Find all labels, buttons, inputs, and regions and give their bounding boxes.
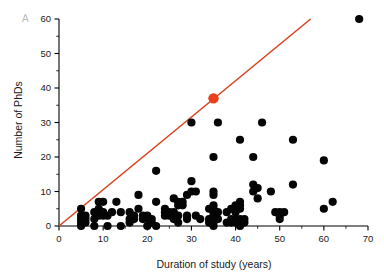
data-point[interactable] bbox=[77, 205, 85, 213]
data-point[interactable] bbox=[289, 181, 297, 189]
data-point[interactable] bbox=[254, 184, 262, 192]
data-point[interactable] bbox=[214, 118, 222, 126]
data-points-layer bbox=[77, 15, 363, 230]
data-point[interactable] bbox=[254, 194, 262, 202]
data-point[interactable] bbox=[267, 187, 275, 195]
x-tick-label: 0 bbox=[56, 233, 61, 244]
data-point[interactable] bbox=[152, 222, 160, 230]
x-tick-label: 10 bbox=[98, 233, 109, 244]
data-point[interactable] bbox=[117, 208, 125, 216]
y-tick-label: 50 bbox=[40, 48, 51, 59]
y-tick-labels: 0102030405060 bbox=[40, 13, 51, 231]
x-tick-labels: 010203040506070 bbox=[56, 233, 373, 244]
highlighted-data-point[interactable] bbox=[208, 93, 218, 103]
y-tick-label: 10 bbox=[40, 186, 51, 197]
data-point[interactable] bbox=[240, 215, 248, 223]
data-point[interactable] bbox=[209, 187, 217, 195]
data-point[interactable] bbox=[134, 205, 142, 213]
data-point[interactable] bbox=[280, 208, 288, 216]
x-tick-label: 30 bbox=[186, 233, 197, 244]
data-point[interactable] bbox=[209, 153, 217, 161]
x-tick-label: 70 bbox=[363, 233, 374, 244]
data-point[interactable] bbox=[179, 198, 187, 206]
data-point[interactable] bbox=[112, 198, 120, 206]
data-point[interactable] bbox=[258, 118, 266, 126]
data-point[interactable] bbox=[355, 15, 363, 23]
y-tick-label: 60 bbox=[40, 13, 51, 24]
data-point[interactable] bbox=[108, 208, 116, 216]
figure-panel: A 010203040506070 0102030405060 Duration… bbox=[0, 0, 384, 278]
data-point[interactable] bbox=[174, 212, 182, 220]
data-point[interactable] bbox=[192, 187, 200, 195]
x-tick-label: 50 bbox=[274, 233, 285, 244]
data-point[interactable] bbox=[289, 136, 297, 144]
y-tick-label: 0 bbox=[46, 220, 51, 231]
data-point[interactable] bbox=[209, 201, 217, 209]
y-axis-title: Number of PhDs bbox=[12, 81, 24, 159]
data-point[interactable] bbox=[187, 177, 195, 185]
data-point[interactable] bbox=[117, 222, 125, 230]
data-point[interactable] bbox=[130, 212, 138, 220]
x-tick-label: 20 bbox=[142, 233, 153, 244]
panel-label: A bbox=[22, 13, 29, 24]
data-point[interactable] bbox=[214, 208, 222, 216]
data-point[interactable] bbox=[249, 153, 257, 161]
data-point[interactable] bbox=[196, 215, 204, 223]
scatter-plot: A 010203040506070 0102030405060 Duration… bbox=[0, 0, 384, 278]
x-axis-title: Duration of study (years) bbox=[157, 258, 272, 270]
data-point[interactable] bbox=[236, 136, 244, 144]
data-point[interactable] bbox=[329, 198, 337, 206]
panel-label-group: A bbox=[22, 13, 29, 24]
x-tick-label: 60 bbox=[319, 233, 330, 244]
data-point[interactable] bbox=[187, 118, 195, 126]
data-point[interactable] bbox=[320, 205, 328, 213]
data-point[interactable] bbox=[148, 215, 156, 223]
data-point[interactable] bbox=[236, 198, 244, 206]
y-tick-label: 30 bbox=[40, 117, 51, 128]
data-point[interactable] bbox=[103, 222, 111, 230]
data-point[interactable] bbox=[81, 212, 89, 220]
data-point[interactable] bbox=[183, 212, 191, 220]
data-point[interactable] bbox=[134, 191, 142, 199]
data-point[interactable] bbox=[99, 198, 107, 206]
x-tick-label: 40 bbox=[230, 233, 241, 244]
y-tick-label: 40 bbox=[40, 82, 51, 93]
data-point[interactable] bbox=[152, 198, 160, 206]
data-point[interactable] bbox=[152, 167, 160, 175]
y-tick-label: 20 bbox=[40, 151, 51, 162]
data-point[interactable] bbox=[320, 156, 328, 164]
